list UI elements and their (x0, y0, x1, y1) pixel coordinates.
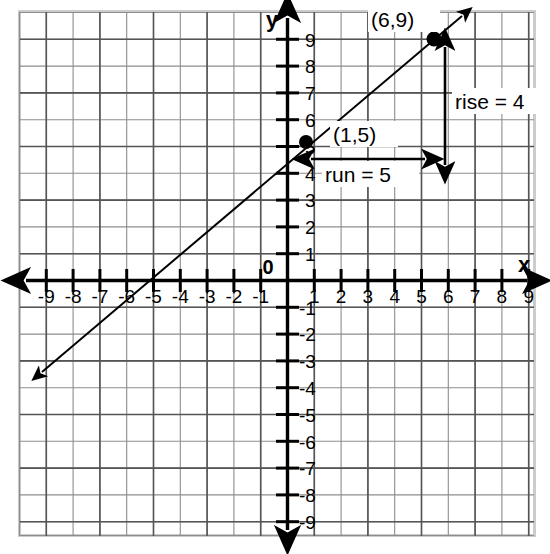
y-tick-label: -4 (299, 378, 316, 399)
x-tick-label: 9 (523, 286, 534, 307)
x-tick-label: -7 (91, 286, 108, 307)
y-tick-label: -9 (299, 512, 316, 533)
y-tick-label: 8 (305, 56, 316, 77)
x-tick-label: -1 (252, 286, 269, 307)
data-point-6-9 (427, 32, 442, 47)
x-axis-negative-labels: -9 -8 -7 -6 -5 -4 -3 -2 -1 (38, 286, 269, 307)
y-tick-label: -5 (299, 405, 316, 426)
y-tick-label: 3 (305, 190, 316, 211)
rise-label: rise = 4 (455, 90, 525, 113)
x-tick-label: -4 (172, 286, 189, 307)
coordinate-plane-graph: -9 -8 -7 -6 -5 -4 -3 -2 -1 1 2 3 4 5 6 7… (0, 0, 550, 554)
y-tick-label: 6 (305, 110, 316, 131)
annotation-point-label-6-9: (6,9) (368, 5, 440, 32)
y-tick-label: -2 (299, 324, 316, 345)
x-tick-label: 7 (470, 286, 481, 307)
y-tick-label: -7 (299, 458, 316, 479)
annotation-rise-label: rise = 4 (452, 88, 550, 114)
x-tick-label: -9 (38, 286, 55, 307)
x-axis-positive-labels: 1 2 3 4 5 6 7 8 9 (309, 286, 534, 307)
x-tick-label: -3 (199, 286, 216, 307)
y-tick-label: 1 (305, 244, 316, 265)
x-tick-label: -5 (145, 286, 162, 307)
y-tick-label: 7 (305, 83, 316, 104)
annotation-run-label: run = 5 (322, 161, 419, 187)
y-axis-negative-labels: -1 -2 -3 -4 -5 -6 -7 -8 -9 (299, 298, 316, 533)
y-tick-label: 9 (305, 30, 316, 51)
x-tick-label: 4 (389, 286, 400, 307)
x-tick-label: 8 (497, 286, 508, 307)
x-tick-label: -8 (65, 286, 82, 307)
x-tick-label: 2 (336, 286, 347, 307)
run-label: run = 5 (325, 163, 391, 186)
x-tick-label: 6 (443, 286, 454, 307)
x-tick-label: 3 (363, 286, 374, 307)
origin-label: 0 (262, 256, 273, 278)
data-point-1-5 (299, 135, 313, 149)
x-tick-label: -2 (225, 286, 242, 307)
graph-canvas: -9 -8 -7 -6 -5 -4 -3 -2 -1 1 2 3 4 5 6 7… (0, 0, 550, 554)
y-tick-label: -1 (299, 298, 316, 319)
annotation-point-label-1-5: (1,5) (330, 121, 398, 147)
y-tick-label: -6 (299, 432, 316, 453)
point-label-6-9: (6,9) (371, 8, 414, 31)
x-axis-label: x (518, 252, 531, 277)
y-tick-label: -3 (299, 351, 316, 372)
point-label-1-5: (1,5) (333, 123, 376, 146)
y-tick-label: 2 (305, 217, 316, 238)
x-tick-label: 5 (416, 286, 427, 307)
y-tick-label: 4 (305, 164, 316, 185)
y-axis-label: y (266, 7, 279, 32)
y-tick-label: -8 (299, 485, 316, 506)
